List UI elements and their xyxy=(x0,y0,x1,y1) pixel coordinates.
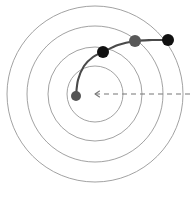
spiral-trajectory-svg xyxy=(0,0,192,200)
reference-line-group xyxy=(95,91,192,97)
data-point-p0[interactable] xyxy=(71,91,81,101)
data-point-p1[interactable] xyxy=(97,46,109,58)
data-point-p2[interactable] xyxy=(129,35,141,47)
data-point-p3[interactable] xyxy=(162,34,174,46)
diagram-canvas xyxy=(0,0,192,200)
